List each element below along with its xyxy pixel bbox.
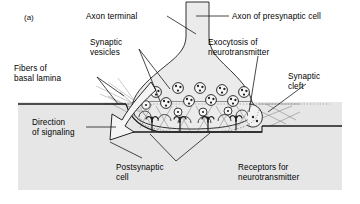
panel-label: (a) — [24, 13, 34, 22]
vesicle — [206, 95, 217, 106]
vesicle — [224, 107, 232, 115]
label-axon-terminal: Axon terminal — [86, 12, 137, 22]
label-direction-of-signaling: Direction of signaling — [32, 118, 75, 137]
figure-panel: (a) Axon terminal Axon of presynaptic ce… — [0, 0, 360, 204]
label-synaptic-vesicles: Synaptic vesicles — [90, 38, 122, 57]
vesicle — [174, 108, 182, 116]
label-exocytosis-neurotransmitter: Exocytosis of neurotransmitter — [208, 38, 269, 57]
vesicle — [173, 83, 184, 94]
label-fibers-basal-lamina: Fibers of basal lamina — [14, 64, 61, 83]
synapse-diagram — [0, 0, 360, 204]
label-receptors-for-neurotransmitter: Receptors for neurotransmitter — [238, 163, 299, 182]
vesicle — [228, 96, 239, 107]
vesicle — [195, 83, 206, 94]
vesicle — [239, 87, 250, 98]
vesicle — [184, 96, 195, 107]
label-postsynaptic-cell: Postsynaptic cell — [116, 163, 164, 182]
leader-basal-lamina-b — [97, 77, 118, 104]
vesicle — [199, 108, 207, 116]
label-synaptic-cleft: Synaptic cleft — [288, 72, 320, 91]
vesicle — [217, 85, 228, 96]
vesicle — [161, 98, 172, 109]
label-axon-presynaptic-cell: Axon of presynaptic cell — [232, 12, 321, 22]
